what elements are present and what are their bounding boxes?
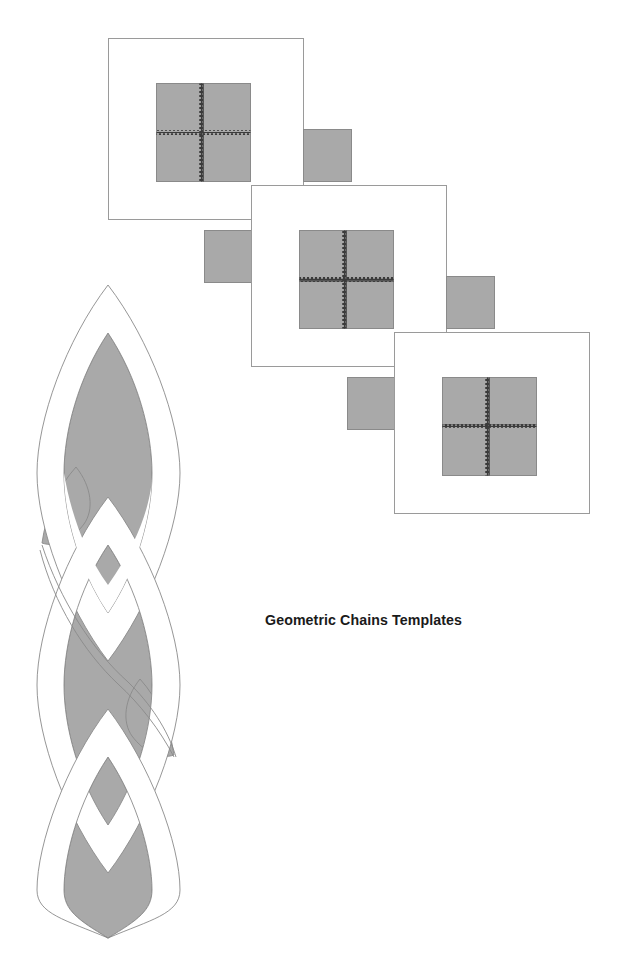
link-tab-square-2: [447, 277, 495, 329]
template-artboard: [0, 0, 635, 971]
link-main-square-1: [157, 84, 251, 182]
link-main-square-3: [443, 378, 537, 476]
link-tab-square-1: [304, 130, 352, 182]
link-main-square-2: [300, 231, 394, 329]
page-title: Geometric Chains Templates: [265, 612, 525, 628]
connector-tab-1: [205, 231, 253, 283]
braided-chain-template[interactable]: [37, 285, 180, 938]
connector-tab-2: [348, 378, 396, 430]
worksheet-page: Geometric Chains Templates: [0, 0, 635, 971]
